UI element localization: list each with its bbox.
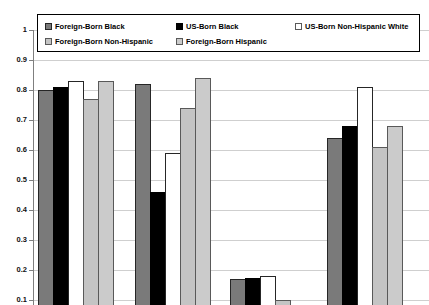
bar-us-born-non-hispanic-white-group1 — [68, 81, 84, 305]
bar-us-born-black-group4 — [342, 126, 358, 305]
legend-label: Foreign-Born Hispanic — [186, 37, 267, 46]
bar-foreign-born-non-hispanic-group3 — [275, 300, 291, 305]
legend-marker-foreign-born-hispanic — [176, 38, 183, 45]
y-axis-label-0-7: 0.7 — [0, 115, 27, 125]
legend-label: Foreign-Born Non-Hispanic — [55, 37, 153, 46]
y-axis-label-0-6: 0.6 — [0, 145, 27, 155]
bar-foreign-born-black-group2 — [135, 84, 151, 305]
bar-us-born-non-hispanic-white-group4 — [357, 87, 373, 305]
bar-us-born-black-group3 — [245, 278, 261, 305]
bar-foreign-born-hispanic-group4 — [387, 126, 403, 305]
legend: Foreign-Born BlackUS-Born BlackUS-Born N… — [37, 14, 420, 52]
y-axis-label-1: 1 — [0, 25, 27, 35]
bar-foreign-born-black-group1 — [38, 90, 54, 305]
bar-foreign-born-hispanic-group1 — [98, 81, 114, 305]
legend-item-us-born-non-hispanic-white: US-Born Non-Hispanic White — [295, 20, 408, 32]
bar-us-born-black-group1 — [53, 87, 69, 305]
legend-item-foreign-born-non-hispanic: Foreign-Born Non-Hispanic — [45, 35, 153, 47]
bar-foreign-born-black-group4 — [327, 138, 343, 305]
bar-foreign-born-non-hispanic-group1 — [83, 99, 99, 305]
bar-us-born-black-group2 — [150, 192, 166, 305]
bar-foreign-born-black-group3 — [230, 279, 246, 305]
y-axis-label-0-5: 0.5 — [0, 175, 27, 185]
legend-item-us-born-black: US-Born Black — [176, 20, 239, 32]
y-axis-line — [33, 30, 34, 305]
y-axis-label-0-4: 0.4 — [0, 205, 27, 215]
y-axis-label-0-8: 0.8 — [0, 85, 27, 95]
legend-marker-us-born-black — [176, 23, 183, 30]
legend-label: US-Born Non-Hispanic White — [305, 22, 408, 31]
y-axis-label-0-1: 0.1 — [0, 295, 27, 305]
bar-foreign-born-non-hispanic-group2 — [180, 108, 196, 305]
bar-foreign-born-non-hispanic-group4 — [372, 147, 388, 305]
bar-foreign-born-hispanic-group2 — [195, 78, 211, 305]
legend-marker-us-born-non-hispanic-white — [295, 23, 302, 30]
y-axis-label-0-2: 0.2 — [0, 265, 27, 275]
legend-label: Foreign-Born Black — [55, 22, 125, 31]
legend-item-foreign-born-black: Foreign-Born Black — [45, 20, 125, 32]
bar-us-born-non-hispanic-white-group2 — [165, 153, 181, 305]
legend-marker-foreign-born-black — [45, 23, 52, 30]
bar-us-born-non-hispanic-white-group3 — [260, 276, 276, 305]
y-axis-label-0-9: 0.9 — [0, 55, 27, 65]
legend-item-foreign-born-hispanic: Foreign-Born Hispanic — [176, 35, 267, 47]
gridline-0-9 — [33, 60, 429, 61]
y-axis-label-0-3: 0.3 — [0, 235, 27, 245]
legend-marker-foreign-born-non-hispanic — [45, 38, 52, 45]
bar-chart: 10.90.80.70.60.50.40.30.20.1 Foreign-Bor… — [0, 0, 429, 305]
legend-label: US-Born Black — [186, 22, 239, 31]
